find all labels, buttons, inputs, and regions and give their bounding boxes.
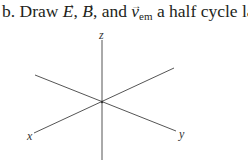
y-axis-label: y xyxy=(179,127,184,142)
z-axis-label: z xyxy=(99,28,104,43)
origin-point xyxy=(101,101,103,103)
x-axis-line xyxy=(34,68,174,133)
x-axis-label: x xyxy=(27,129,32,144)
coordinate-axes-diagram xyxy=(0,0,248,161)
